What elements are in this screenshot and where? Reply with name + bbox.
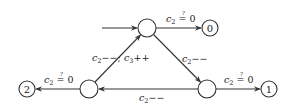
svg-text:c2 = 0: c2 = 0 [44, 74, 74, 87]
state-top [138, 19, 156, 37]
label-top-to-final0: c2 = 0 ? [166, 10, 196, 27]
svg-text:?: ? [60, 71, 63, 77]
label-bottom-right-to-final1: c2 = 0 ? [224, 71, 254, 88]
label-bottom-left-to-top: c2−−; c3++ [92, 52, 149, 65]
state-bottom-right [198, 80, 216, 98]
label-bottom-left-to-final2: c2 = 0 ? [44, 71, 74, 88]
svg-text:?: ? [240, 71, 243, 77]
state-bottom-left [80, 80, 98, 98]
label-bottom-right-to-bottom-left: c2−− [139, 92, 164, 105]
state-machine-diagram: 0 1 2 c2 = 0 ? c2−− c2 = 0 ? c2−− c2 = 0… [0, 0, 293, 105]
svg-text:?: ? [182, 10, 185, 16]
svg-text:c2 = 0: c2 = 0 [166, 13, 196, 26]
label-top-to-bottom-right: c2−− [182, 53, 207, 66]
svg-text:c2−−;: c2−−; [92, 52, 121, 65]
svg-text:c2 = 0: c2 = 0 [224, 74, 254, 87]
svg-text:c2−−: c2−− [182, 53, 207, 66]
final-state-0-label: 0 [207, 23, 213, 34]
svg-text:c2−−: c2−− [139, 92, 164, 105]
final-state-1-label: 1 [266, 84, 272, 95]
final-state-2-label: 2 [24, 84, 30, 95]
svg-text:c3++: c3++ [124, 52, 149, 65]
